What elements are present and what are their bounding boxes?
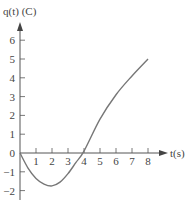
- y-tick-label: −1: [3, 166, 15, 178]
- x-tick-label: 3: [65, 155, 71, 167]
- x-tick-label: 2: [49, 155, 55, 167]
- x-tick-label: 5: [97, 155, 103, 167]
- y-tick-label: 1: [10, 128, 16, 140]
- x-axis-label: t(s): [170, 147, 185, 160]
- y-axis-label: q(t) (C): [3, 5, 37, 18]
- axes: [17, 22, 168, 200]
- x-tick-label: 4: [81, 155, 87, 167]
- y-axis-arrow-icon: [17, 22, 23, 31]
- y-tick-label: 2: [10, 109, 16, 121]
- x-tick-label: 1: [33, 155, 39, 167]
- x-axis-arrow-icon: [159, 150, 168, 156]
- y-tick-label: 6: [10, 34, 16, 46]
- y-tick-label: 3: [10, 91, 16, 103]
- y-tick-label: 0: [10, 147, 16, 159]
- y-tick-label: −2: [3, 185, 15, 197]
- chart: 12345678 6543210−1−2 q(t) (C) t(s): [0, 0, 189, 203]
- x-tick-label: 8: [145, 155, 151, 167]
- x-tick-label: 7: [129, 155, 135, 167]
- y-tick-label: 4: [10, 72, 16, 84]
- x-tick-label: 6: [113, 155, 119, 167]
- y-tick-label: 5: [10, 53, 16, 65]
